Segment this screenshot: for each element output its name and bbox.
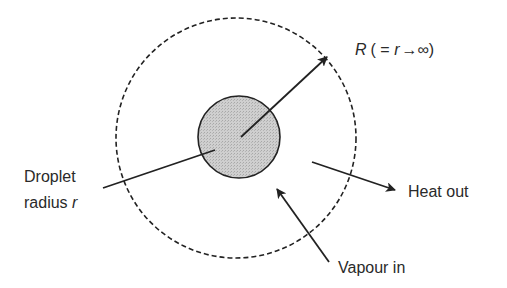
- heat-out-arrow: [312, 162, 395, 190]
- droplet-radius-word: radius: [24, 194, 72, 211]
- heat-out-label: Heat out: [408, 183, 469, 200]
- far-field-label: R( = r→∞): [355, 41, 434, 58]
- droplet-label-line1: Droplet: [24, 168, 76, 185]
- far-field-eq: ( =: [371, 41, 395, 58]
- vapour-in-arrow: [277, 189, 329, 262]
- far-field-r: r: [394, 41, 400, 58]
- droplet-label-line2: radius r: [24, 194, 78, 211]
- far-field-infinity: ∞): [417, 41, 434, 58]
- droplet-radius-symbol: r: [72, 194, 78, 211]
- vapour-in-label: Vapour in: [338, 259, 405, 276]
- droplet-circle: [198, 96, 280, 178]
- diagram-svg: R( = r→∞) Droplet radius r Heat out Vapo…: [0, 0, 507, 288]
- far-field-arrow-icon: →: [401, 41, 417, 58]
- far-field-R: R: [355, 41, 367, 58]
- droplet-diagram: R( = r→∞) Droplet radius r Heat out Vapo…: [0, 0, 507, 288]
- radius-R-arrow: [241, 57, 327, 137]
